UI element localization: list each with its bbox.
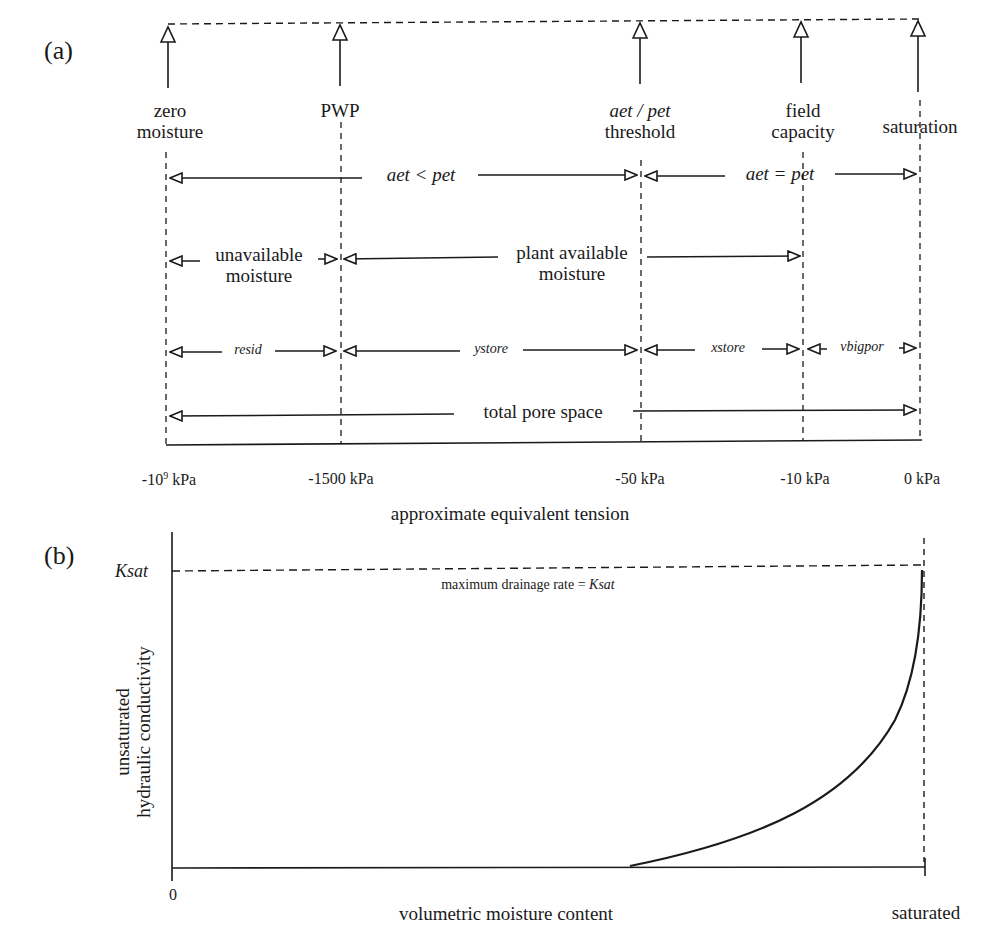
marker-aet-pet-threshold: aet / pet threshold <box>605 100 676 143</box>
ksat-y-tick: Ksat <box>115 561 148 581</box>
x-axis-title: volumetric moisture content <box>399 903 613 924</box>
panel-a <box>161 19 925 446</box>
panel-b-label: (b) <box>44 541 74 570</box>
ksat-dashed-line <box>172 565 922 571</box>
range-aet-eq-pet: aet = pet <box>746 163 815 184</box>
marker-threshold-line2: threshold <box>605 121 676 142</box>
plant-available-line2: moisture <box>516 263 627 284</box>
unavailable-line1: unavailable <box>215 244 303 265</box>
range-xstore: xstore <box>711 340 745 356</box>
range-ystore: ystore <box>474 341 508 357</box>
panel-a-label: (a) <box>44 36 73 65</box>
marker-pwp: PWP <box>320 100 359 121</box>
marker-field-capacity: field capacity <box>771 100 834 143</box>
range-resid: resid <box>234 342 261 358</box>
range-vbigpor: vbigpor <box>840 339 884 355</box>
range-total-pore-space: total pore space <box>483 401 602 422</box>
plant-available-line1: plant available <box>516 242 627 263</box>
x-tick-zero: 0 <box>169 886 177 904</box>
marker-saturation: saturation <box>883 116 958 137</box>
y-axis-title-line2: hydraulic conductivity <box>133 622 154 842</box>
max-drainage-annotation: maximum drainage rate = Ksat <box>441 577 615 593</box>
top-dashed-line <box>168 19 919 24</box>
y-axis-title: unsaturated hydraulic conductivity <box>112 622 155 842</box>
range-plant-available-moisture: plant available moisture <box>516 242 627 285</box>
x-axis <box>172 867 925 868</box>
x-tick-saturated: saturated <box>892 902 961 923</box>
up-arrow-icons <box>161 21 925 92</box>
unavailable-line2: moisture <box>215 265 303 286</box>
tension-tick-saturation: 0 kPa <box>904 470 940 488</box>
marker-zero-line1: zero <box>137 100 204 121</box>
marker-zero-line2: moisture <box>137 121 204 142</box>
range-unavailable-moisture: unavailable moisture <box>215 244 303 287</box>
conductivity-curve <box>630 570 922 866</box>
marker-threshold-line1: aet / pet <box>605 100 676 121</box>
tension-tick-field: -10 kPa <box>780 470 829 488</box>
tension-axis-title: approximate equivalent tension <box>391 503 629 524</box>
marker-field-line1: field <box>771 100 834 121</box>
tension-tick-min: -109 kPa <box>142 470 196 489</box>
range-aet-lt-pet: aet < pet <box>387 164 456 185</box>
marker-field-line2: capacity <box>771 121 834 142</box>
tension-tick-threshold: -50 kPa <box>615 470 664 488</box>
baseline <box>166 440 922 445</box>
y-axis-title-line1: unsaturated <box>112 622 133 842</box>
marker-zero-moisture: zero moisture <box>137 100 204 143</box>
tension-tick-pwp: -1500 kPa <box>308 470 373 488</box>
